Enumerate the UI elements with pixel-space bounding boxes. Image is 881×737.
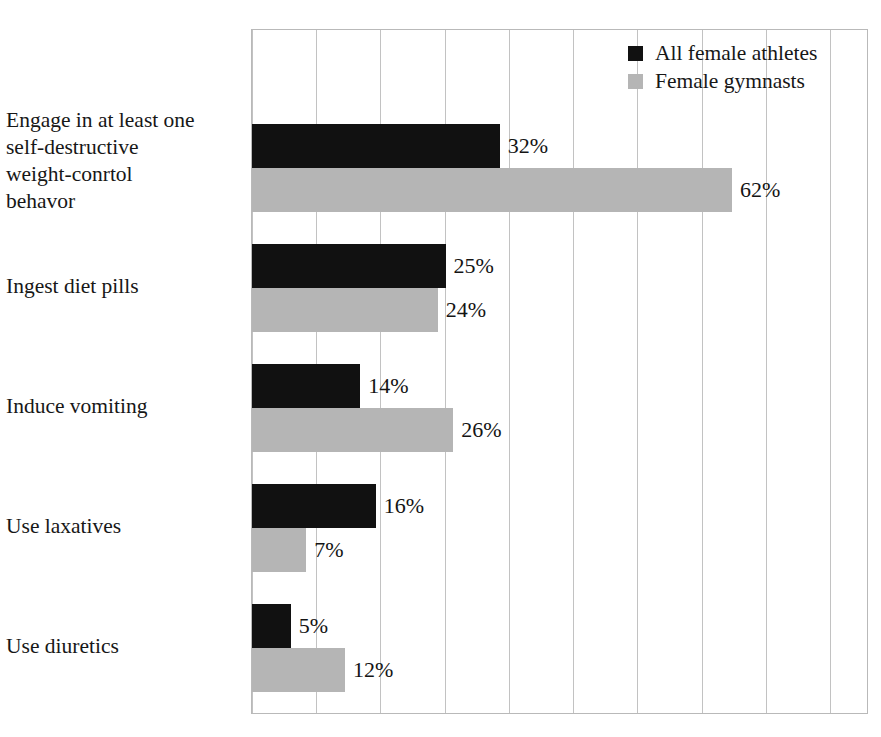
category-label: Use diuretics: [6, 633, 238, 660]
bar-value-label: 5%: [291, 604, 328, 648]
legend-item: All female athletes: [628, 40, 868, 66]
gridline: [830, 30, 831, 713]
bar-value-label: 26%: [453, 408, 501, 452]
legend-item: Female gymnasts: [628, 68, 868, 94]
chart-legend: All female athletesFemale gymnasts: [628, 40, 868, 96]
plot-area: 32%62%25%24%14%26%16%7%5%12%: [251, 29, 868, 714]
legend-swatch-icon: [628, 46, 643, 61]
bar-value-label: 14%: [360, 364, 408, 408]
bar: [252, 124, 500, 168]
bar: [252, 648, 345, 692]
legend-swatch-icon: [628, 74, 643, 89]
bar: [252, 364, 360, 408]
category-label: Use laxatives: [6, 513, 238, 540]
bar: [252, 244, 446, 288]
legend-label: Female gymnasts: [655, 69, 805, 93]
bar: [252, 604, 291, 648]
gridline: [702, 30, 703, 713]
bar: [252, 408, 453, 452]
bar-value-label: 12%: [345, 648, 393, 692]
bar: [252, 288, 438, 332]
legend-label: All female athletes: [655, 41, 817, 65]
bar: [252, 528, 306, 572]
bar-value-label: 16%: [376, 484, 424, 528]
bar: [252, 484, 376, 528]
gridline: [637, 30, 638, 713]
bar-value-label: 7%: [306, 528, 343, 572]
bar-value-label: 32%: [500, 124, 548, 168]
category-label: Ingest diet pills: [6, 273, 238, 300]
category-axis-labels: Engage in at least one self-destructive …: [0, 29, 245, 714]
bar: [252, 168, 732, 212]
bar-value-label: 25%: [446, 244, 494, 288]
category-label: Engage in at least one self-destructive …: [6, 107, 238, 215]
category-label: Induce vomiting: [6, 393, 238, 420]
bar-value-label: 24%: [438, 288, 486, 332]
bar-value-label: 62%: [732, 168, 780, 212]
gridline: [573, 30, 574, 713]
gridline: [766, 30, 767, 713]
bar-chart: 32%62%25%24%14%26%16%7%5%12% Engage in a…: [0, 0, 881, 737]
